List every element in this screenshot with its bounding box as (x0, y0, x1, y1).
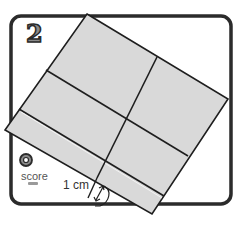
score-value-dash (28, 182, 38, 185)
score-label: score (21, 170, 48, 182)
score-target-center (24, 158, 29, 163)
step-number: 2 (26, 22, 43, 46)
measurement-label: 1 cm (63, 178, 89, 192)
diagram-card: 2 score 1 cm (0, 0, 236, 225)
